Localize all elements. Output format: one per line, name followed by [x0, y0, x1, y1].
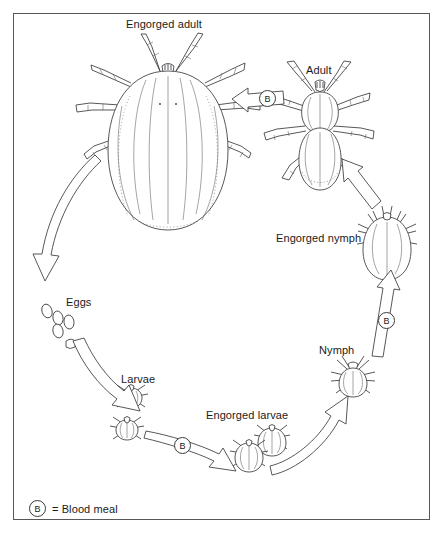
blood-meal-symbol: B — [179, 441, 185, 451]
legend: B = Blood meal — [29, 500, 118, 517]
blood-meal-marker-larvae: B — [174, 437, 191, 454]
blood-meal-symbol: B — [383, 316, 389, 326]
legend-text: = Blood meal — [52, 503, 118, 515]
label-eggs: Eggs — [66, 296, 91, 308]
label-engorged-larvae: Engorged larvae — [206, 409, 288, 421]
label-nymph: Nymph — [319, 344, 354, 356]
legend-symbol: B — [34, 504, 40, 514]
label-larvae: Larvae — [121, 373, 155, 385]
label-adult: Adult — [306, 64, 332, 76]
legend-blood-meal-icon: B — [29, 500, 46, 517]
blood-meal-marker-nymph: B — [378, 312, 395, 329]
label-engorged-nymph: Engorged nymph — [276, 232, 361, 244]
label-engorged-adult: Engorged adult — [126, 18, 202, 30]
blood-meal-symbol: B — [264, 94, 270, 104]
figure-border — [13, 13, 430, 520]
blood-meal-marker-adult: B — [259, 90, 276, 107]
tick-life-cycle-figure: Engorged adult Adult Engorged nymph Nymp… — [0, 0, 443, 541]
